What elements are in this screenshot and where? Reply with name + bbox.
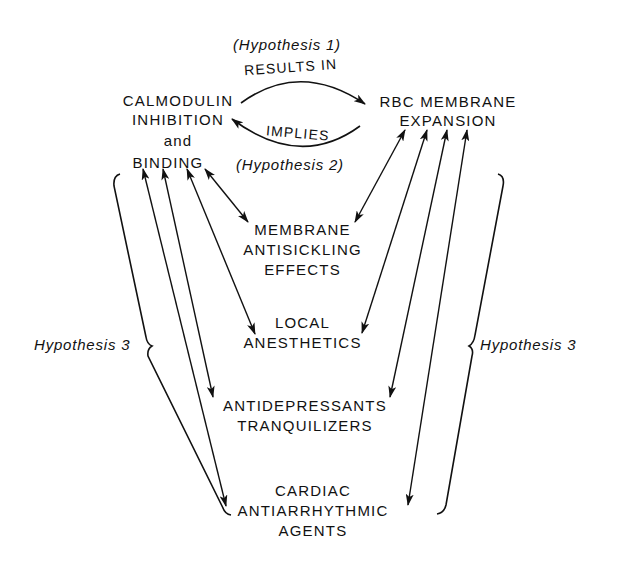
node-calmodulin: CALMODULIN INHIBITION and BINDING — [108, 91, 248, 172]
node-cardiac-antiarrhythmic: CARDIAC ANTIARRHYTHMIC AGENTS — [218, 481, 408, 540]
node-antidepressants-tranquilizers: ANTIDEPRESSANTS TRANQUILIZERS — [205, 396, 405, 435]
brace-left — [114, 174, 231, 515]
node-local-line-1: LOCAL — [230, 313, 375, 332]
node-cardiac-line-1: CARDIAC — [218, 481, 408, 500]
diagram-canvas: (Hypothesis 1) (Hypothesis 2) Hypothesis… — [0, 0, 626, 570]
node-local-anesthetics: LOCAL ANESTHETICS — [230, 313, 375, 352]
hypothesis-1-label: (Hypothesis 1) — [233, 36, 341, 53]
node-antidep-line-1: ANTIDEPRESSANTS — [205, 396, 405, 415]
node-calmodulin-line-3: and — [108, 131, 248, 150]
node-membrane-antisickling: MEMBRANE ANTISICKLING EFFECTS — [230, 220, 375, 279]
node-membrane-line-2: ANTISICKLING — [230, 240, 375, 259]
arrow-results-in — [241, 82, 365, 104]
node-membrane-line-3: EFFECTS — [230, 260, 375, 279]
arrow-expansion-antidepressants — [390, 130, 447, 397]
node-antidep-line-2: TRANQUILIZERS — [205, 416, 405, 435]
hypothesis-3-left-label: Hypothesis 3 — [34, 336, 130, 353]
hypothesis-3-right-label: Hypothesis 3 — [480, 336, 576, 353]
node-rbc-line-1: RBC MEMBRANE — [368, 92, 528, 111]
node-calmodulin-line-1: CALMODULIN — [108, 91, 248, 110]
arrow-expansion-cardiac — [408, 130, 467, 505]
node-cardiac-line-2: ANTIARRHYTHMIC — [218, 501, 408, 520]
node-rbc-membrane-expansion: RBC MEMBRANE EXPANSION — [368, 92, 528, 130]
node-rbc-line-2: EXPANSION — [368, 111, 528, 130]
node-local-line-2: ANESTHETICS — [230, 333, 375, 352]
node-calmodulin-line-4: BINDING — [88, 153, 248, 172]
node-membrane-line-1: MEMBRANE — [230, 220, 375, 239]
node-cardiac-line-3: AGENTS — [218, 521, 408, 540]
arrow-expansion-membrane — [355, 130, 405, 222]
hypothesis-2-label: (Hypothesis 2) — [236, 156, 344, 173]
node-calmodulin-line-2: INHIBITION — [108, 110, 248, 129]
arrow-binding-membrane — [205, 169, 248, 222]
arrow-binding-cardiac — [143, 169, 226, 506]
